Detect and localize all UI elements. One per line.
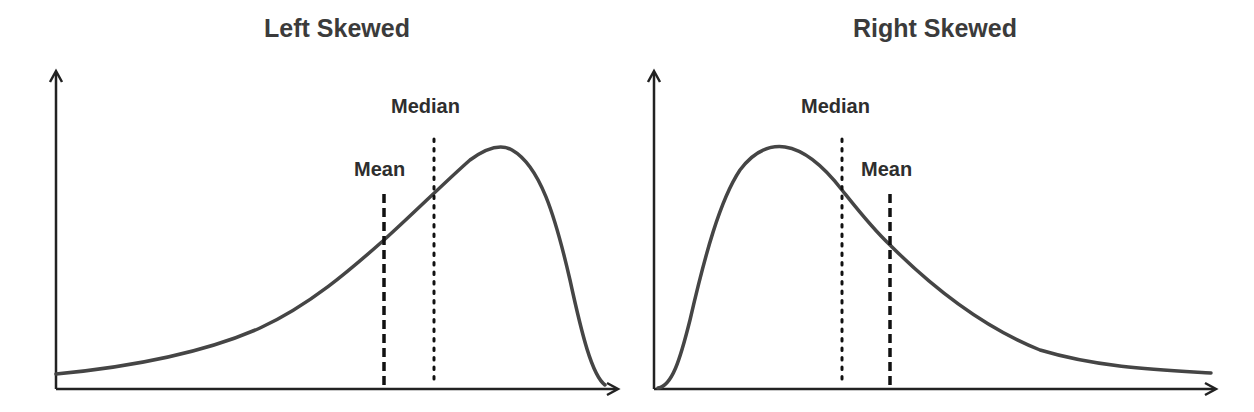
right-skewed-curve xyxy=(658,147,1211,388)
right-chart xyxy=(648,71,1216,395)
skew-charts xyxy=(0,0,1254,412)
left-chart xyxy=(50,71,618,395)
left-skewed-curve xyxy=(56,147,605,385)
